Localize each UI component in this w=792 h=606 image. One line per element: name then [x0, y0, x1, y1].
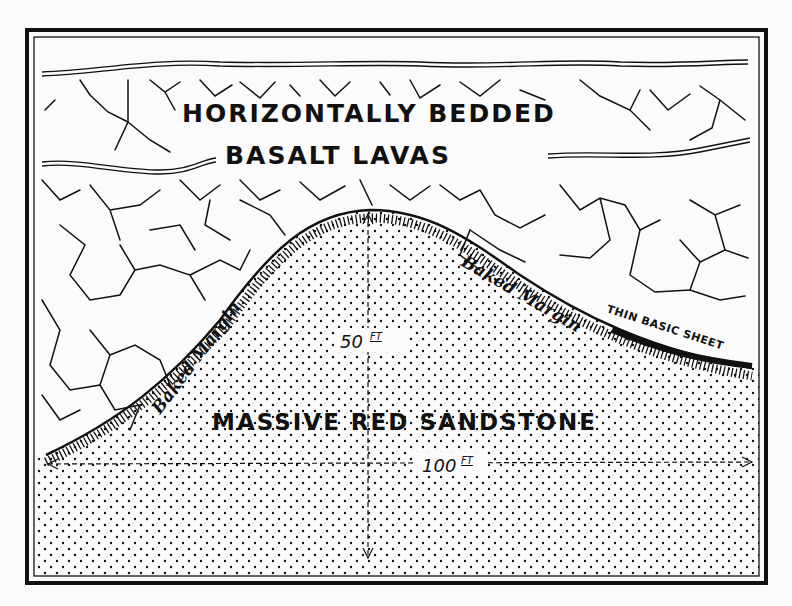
svg-text:FT: FT: [370, 331, 383, 342]
width-dimension-label: 100 FT: [414, 452, 486, 476]
sandstone-body: [34, 210, 759, 576]
svg-text:100: 100: [422, 455, 456, 476]
height-dimension-label: 50 FT: [336, 328, 406, 352]
basalt-label-line1: HORIZONTALLY BEDDED: [182, 99, 556, 128]
basalt-label-line2: BASALT LAVAS: [225, 141, 451, 170]
geological-cross-section: HORIZONTALLY BEDDED BASALT LAVAS MASSIVE…: [0, 0, 792, 606]
sandstone-label: MASSIVE RED SANDSTONE: [212, 409, 597, 435]
svg-text:FT: FT: [461, 455, 474, 466]
svg-text:50: 50: [340, 331, 363, 352]
